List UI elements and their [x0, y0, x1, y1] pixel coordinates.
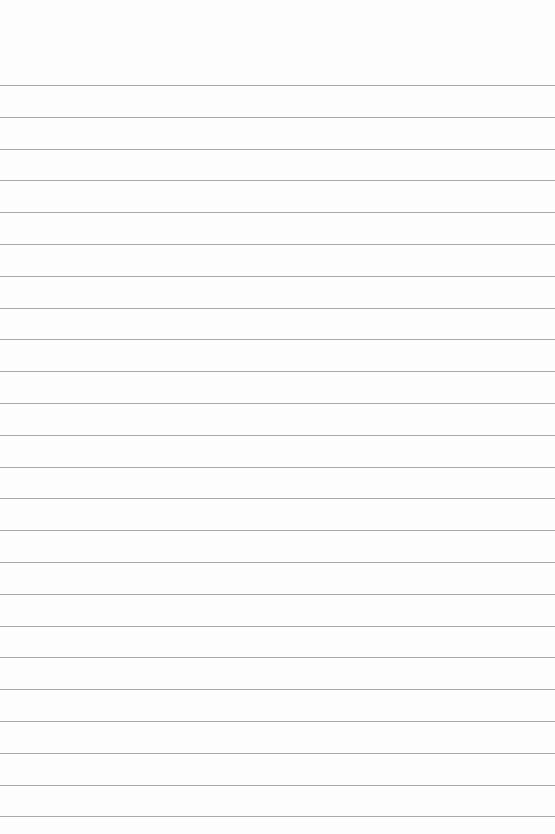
ruled-line	[0, 212, 555, 213]
ruled-line	[0, 403, 555, 404]
ruled-line	[0, 244, 555, 245]
ruled-line	[0, 753, 555, 754]
ruled-line	[0, 467, 555, 468]
ruled-line	[0, 562, 555, 563]
ruled-line	[0, 594, 555, 595]
lined-paper-page	[0, 0, 555, 834]
ruled-line	[0, 785, 555, 786]
ruled-line	[0, 657, 555, 658]
ruled-line	[0, 435, 555, 436]
ruled-line	[0, 530, 555, 531]
ruled-line	[0, 180, 555, 181]
ruled-line	[0, 371, 555, 372]
ruled-line	[0, 117, 555, 118]
ruled-line	[0, 498, 555, 499]
ruled-line	[0, 721, 555, 722]
ruled-line	[0, 816, 555, 817]
ruled-line	[0, 626, 555, 627]
ruled-line	[0, 339, 555, 340]
ruled-line	[0, 308, 555, 309]
ruled-line	[0, 85, 555, 86]
ruled-line	[0, 689, 555, 690]
ruled-line	[0, 276, 555, 277]
ruled-line	[0, 149, 555, 150]
